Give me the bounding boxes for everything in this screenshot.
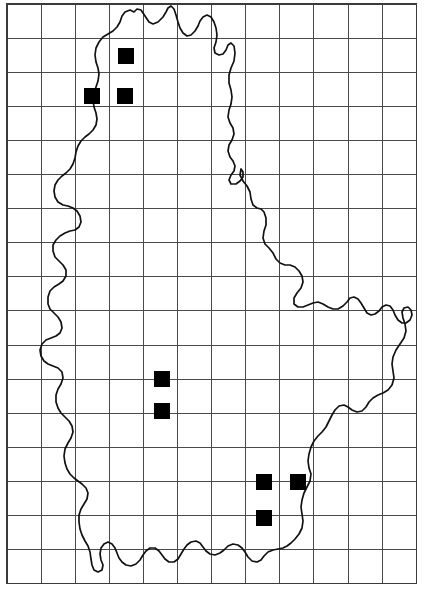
record-squares-layer (84, 48, 306, 526)
map-canvas (0, 0, 426, 615)
distribution-map-figure (0, 0, 426, 615)
record-square (256, 474, 272, 490)
record-square (118, 48, 134, 64)
record-square (154, 371, 170, 387)
record-square (84, 88, 100, 104)
record-square (290, 474, 306, 490)
record-square (256, 510, 272, 526)
utm-grid (7, 4, 416, 584)
record-square (154, 403, 170, 419)
record-square (117, 88, 133, 104)
